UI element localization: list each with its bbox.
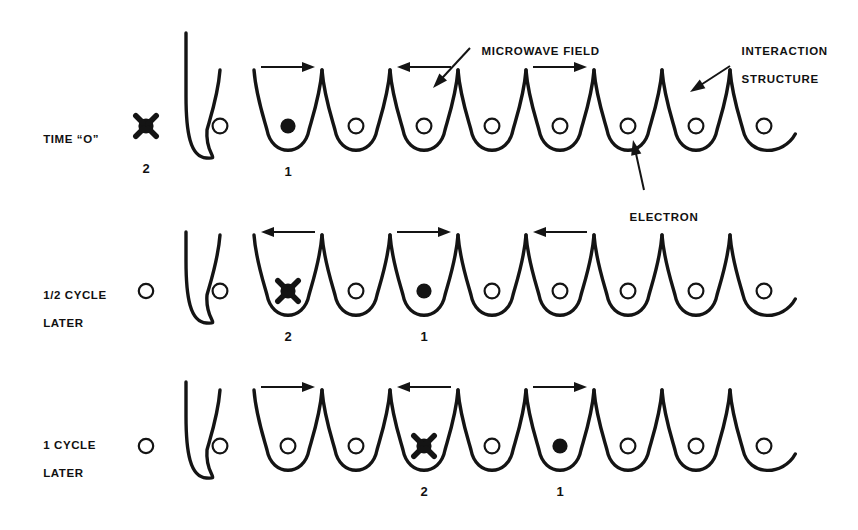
particle-open-row-half-cycle-c4 (485, 284, 500, 299)
cell-number-row-time-zero-c1: 1 (278, 164, 298, 179)
particle-open-row-one-cycle-c7 (689, 439, 704, 454)
cell-number-row-time-zero-outside: 2 (136, 161, 156, 176)
structure-lead-row-half-cycle (186, 232, 220, 323)
structure-hairpin-row-half-cycle-5 (526, 235, 594, 315)
cell-number-row-half-cycle-c1: 2 (278, 329, 298, 344)
particle-open-row-time-zero-c3 (417, 119, 432, 134)
structure-lead-row-time-zero (186, 33, 220, 158)
callout-arrow-electron (631, 140, 644, 190)
structure-hairpin-row-time-zero-7 (662, 70, 730, 150)
particle-open-row-one-cycle-c6 (621, 439, 636, 454)
structure-hairpin-row-half-cycle-4 (458, 235, 526, 315)
callout-electron-label: ELECTRON (630, 211, 699, 223)
row-label-line1: 1/2 CYCLE (43, 289, 107, 301)
callout-interaction-structure-line2: STRUCTURE (742, 73, 819, 85)
cell-number-row-one-cycle-c3: 2 (414, 484, 434, 499)
particle-open-row-one-cycle-c0 (213, 439, 228, 454)
structure-hairpin-row-one-cycle-1 (254, 390, 322, 470)
structure-hairpin-row-time-zero-6 (594, 70, 662, 150)
particle-open-row-time-zero-c4 (485, 119, 500, 134)
structure-hairpin-row-half-cycle-2 (322, 235, 390, 315)
row-label-time-zero: TIME “O” (28, 118, 99, 160)
interaction-structure-figure: TIME “O” 1/2 CYCLE LATER 1 CYCLE LATER M… (0, 0, 858, 530)
outside-marker-open-row-half-cycle (139, 284, 153, 298)
particle-open-row-half-cycle-c7 (689, 284, 704, 299)
row-label-line2: LATER (43, 467, 83, 479)
structure-hairpin-row-one-cycle-2 (322, 390, 390, 470)
structure-hairpin-row-time-zero-3 (390, 70, 458, 150)
outside-marker-star-row-time-zero (136, 116, 156, 136)
particle-open-row-half-cycle-c5 (553, 284, 568, 299)
callout-electron: ELECTRON (614, 196, 698, 238)
particle-filled-row-one-cycle-c5 (552, 438, 567, 453)
row-label-line1: 1 CYCLE (43, 439, 96, 451)
particle-filled-row-half-cycle-c3 (416, 283, 431, 298)
particle-open-row-time-zero-c6 (621, 119, 636, 134)
particle-open-row-one-cycle-c8 (757, 439, 772, 454)
particle-open-row-time-zero-c0 (213, 119, 228, 134)
callout-interaction-structure-line1: INTERACTION (742, 45, 828, 57)
structure-hairpin-row-one-cycle-3 (390, 390, 458, 470)
structure-hairpin-row-one-cycle-4 (458, 390, 526, 470)
field-arrow-row-half-cycle-1-right (397, 227, 451, 237)
particle-star-row-half-cycle-c1 (278, 281, 298, 301)
field-arrow-row-time-zero-0-right (261, 62, 315, 72)
particle-open-row-half-cycle-c6 (621, 284, 636, 299)
field-arrow-row-one-cycle-0-right (261, 382, 315, 392)
structure-hairpin-row-half-cycle-6 (594, 235, 662, 315)
particle-open-row-time-zero-c7 (689, 119, 704, 134)
structure-hairpin-row-time-zero-1 (254, 70, 322, 150)
particle-open-row-half-cycle-c2 (349, 284, 364, 299)
structure-hairpin-row-one-cycle-7 (662, 390, 730, 470)
structure-hairpin-row-one-cycle-6 (594, 390, 662, 470)
cell-number-row-one-cycle-c5: 1 (550, 484, 570, 499)
particle-filled-row-time-zero-c1 (280, 118, 295, 133)
cell-number-row-half-cycle-c3: 1 (414, 329, 434, 344)
structure-hairpin-row-half-cycle-7 (662, 235, 730, 315)
callout-arrow-interaction-structure (690, 66, 730, 92)
particle-open-row-one-cycle-c2 (349, 439, 364, 454)
row-label-one-cycle: 1 CYCLE LATER (28, 424, 96, 494)
row-label-half-cycle: 1/2 CYCLE LATER (28, 274, 107, 344)
particle-open-row-one-cycle-c1 (281, 439, 296, 454)
field-arrow-row-time-zero-1-left (397, 62, 451, 72)
row-label-line1: TIME “O” (43, 133, 99, 145)
structure-lead-row-one-cycle (186, 382, 220, 478)
particle-open-row-half-cycle-c8 (757, 284, 772, 299)
structure-tail-row-one-cycle (730, 390, 795, 470)
structure-hairpin-row-time-zero-4 (458, 70, 526, 150)
field-arrow-row-one-cycle-1-left (397, 382, 451, 392)
particle-open-row-time-zero-c5 (553, 119, 568, 134)
field-arrow-row-half-cycle-2-left (533, 227, 587, 237)
row-label-line2: LATER (43, 317, 83, 329)
callout-microwave-field: MICROWAVE FIELD (466, 30, 600, 72)
particle-open-row-one-cycle-c4 (485, 439, 500, 454)
structure-hairpin-row-time-zero-2 (322, 70, 390, 150)
particle-open-row-half-cycle-c0 (213, 284, 228, 299)
structure-hairpin-row-half-cycle-1 (254, 235, 322, 315)
callout-interaction-structure: INTERACTION STRUCTURE (726, 30, 828, 100)
field-arrow-row-one-cycle-2-right (533, 382, 587, 392)
particle-star-row-one-cycle-c3 (414, 436, 434, 456)
structure-hairpin-row-one-cycle-5 (526, 390, 594, 470)
structure-hairpin-row-half-cycle-3 (390, 235, 458, 315)
outside-marker-open-row-one-cycle (139, 439, 153, 453)
callout-microwave-field-label: MICROWAVE FIELD (482, 45, 600, 57)
particle-open-row-time-zero-c2 (349, 119, 364, 134)
structure-hairpin-row-time-zero-5 (526, 70, 594, 150)
particle-open-row-time-zero-c8 (757, 119, 772, 134)
structure-tail-row-half-cycle (730, 235, 795, 315)
field-arrow-row-half-cycle-0-left (261, 227, 315, 237)
